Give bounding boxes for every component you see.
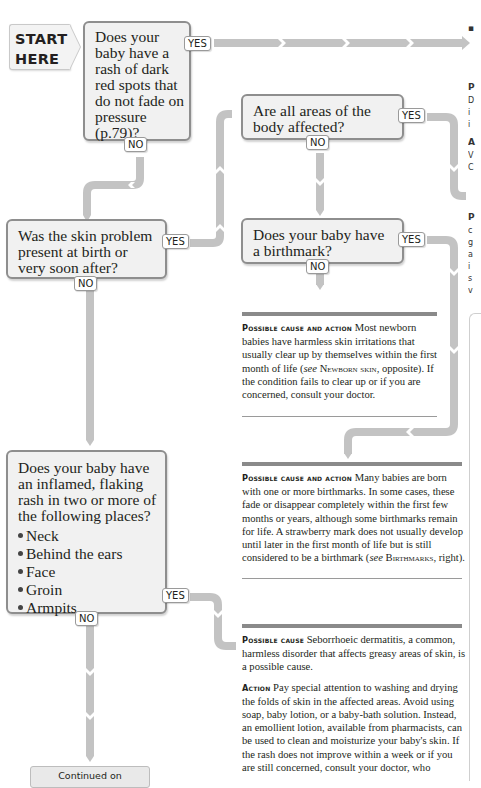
bullet-icon: [18, 587, 23, 592]
question-box-flaking-rash: Does your baby have an inflamed, flaking…: [6, 450, 167, 614]
result-seborrhoeic-dermatitis: Possible cause Seborrhoeic dermatitis, a…: [242, 633, 466, 781]
arrow-q5-yes: [190, 597, 236, 646]
see-ref: see: [304, 363, 318, 374]
body-locations-list: Neck Behind the ears Face Groin Armpits: [8, 527, 165, 617]
question-text: Does your baby have a rash of dark red s…: [85, 23, 189, 141]
edge-char: a: [468, 250, 473, 259]
no-button-q1[interactable]: NO: [124, 137, 147, 152]
yes-button-q1[interactable]: YES: [184, 36, 211, 51]
arrowhead: [86, 440, 94, 446]
cross-reference-newborn-skin[interactable]: Newborn skin: [320, 363, 377, 374]
edge-char: s: [468, 274, 472, 283]
yes-button-q5[interactable]: YES: [162, 588, 189, 603]
arrow-q2-yes: [190, 114, 232, 243]
edge-char: c: [468, 226, 472, 235]
result-heading: Possible cause and action: [242, 323, 352, 333]
yes-button-q4[interactable]: YES: [398, 232, 425, 247]
arrowhead: [316, 210, 324, 216]
list-item: Face: [18, 563, 165, 581]
arrowhead: [86, 756, 94, 762]
bullet-icon: [18, 569, 23, 574]
list-item: Behind the ears: [18, 545, 165, 563]
question-box-birthmark: Does your baby have a birthmark?: [241, 218, 404, 264]
question-box-present-at-birth: Was the skin problem present at birth or…: [6, 219, 167, 279]
edge-char: g: [468, 238, 473, 247]
question-text: Was the skin problem present at birth or…: [8, 221, 165, 276]
edge-char: C: [468, 163, 474, 172]
edge-char: V: [468, 151, 473, 160]
yes-button-q2[interactable]: YES: [162, 234, 189, 249]
list-item-text: Neck: [26, 527, 59, 544]
cause-heading: Possible cause: [242, 635, 304, 645]
result-heading: Possible cause and action: [242, 473, 352, 483]
see-ref: see: [369, 552, 383, 563]
start-here-pointer: [69, 24, 80, 70]
edge-char: i: [468, 120, 470, 129]
start-here-label: START HERE: [15, 29, 67, 69]
result-divider-top: [242, 624, 462, 628]
edge-char: P: [468, 212, 475, 222]
list-item: Neck: [18, 527, 165, 545]
yes-button-q3[interactable]: YES: [398, 108, 425, 123]
result-body: Many babies are born with one or more bi…: [242, 472, 463, 563]
bullet-icon: [18, 605, 23, 610]
arrowhead: [344, 453, 352, 459]
result-body: , right).: [433, 552, 464, 563]
bullet-icon: [18, 533, 23, 538]
arrowhead: [316, 284, 324, 290]
list-item-text: Groin: [26, 581, 62, 598]
action-body: Pay special attention to washing and dry…: [242, 682, 462, 773]
result-divider-top: [242, 312, 437, 316]
edge-char: i: [468, 262, 470, 271]
no-button-q3[interactable]: NO: [306, 135, 329, 150]
start-line2: HERE: [15, 49, 67, 69]
edge-char: P: [468, 82, 475, 92]
arrow-q3-yes: [427, 117, 466, 196]
result-divider-top: [242, 462, 462, 466]
list-item-text: Face: [26, 563, 55, 580]
result-newborn-skin: Possible cause and action Most newborn b…: [242, 321, 442, 408]
question-text: Does your baby have an inflamed, flaking…: [8, 452, 165, 524]
no-button-q2[interactable]: NO: [74, 276, 97, 291]
result-divider-bottom: [242, 578, 462, 579]
list-item-text: Armpits: [26, 599, 77, 616]
edge-char: v: [468, 286, 473, 295]
action-heading: Action: [242, 683, 270, 693]
edge-char: A: [468, 137, 475, 147]
cross-reference-birthmarks[interactable]: Birthmarks: [386, 552, 434, 563]
edge-char: D: [468, 96, 474, 105]
list-item-text: Behind the ears: [26, 545, 122, 562]
result-divider-bottom: [242, 416, 437, 417]
continued-on-box[interactable]: Continued on: [30, 766, 150, 788]
edge-char: i: [468, 108, 470, 117]
question-box-dark-red-spots: Does your baby have a rash of dark red s…: [83, 21, 191, 141]
result-birthmarks: Possible cause and action Many babies ar…: [242, 471, 466, 571]
no-button-q5[interactable]: NO: [75, 611, 98, 626]
question-text: Does your baby have a birthmark?: [243, 220, 402, 259]
start-line1: START: [15, 29, 67, 49]
no-button-q4[interactable]: NO: [306, 259, 329, 274]
adjacent-column-cropped-text: ▪ P D i i A V C P c g a i s v: [468, 20, 480, 780]
question-text: Are all areas of the body affected?: [243, 96, 402, 135]
question-box-all-areas: Are all areas of the body affected?: [241, 94, 404, 140]
edge-char: ▪: [468, 23, 474, 33]
arrow-q1-no: [87, 157, 140, 215]
bullet-icon: [18, 551, 23, 556]
list-item: Groin: [18, 581, 165, 599]
